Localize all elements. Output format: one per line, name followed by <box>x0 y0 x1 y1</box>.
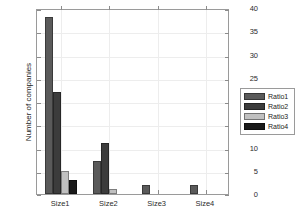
x-tick-label: Size4 <box>182 199 228 208</box>
x-tick-label: Size2 <box>85 199 131 208</box>
legend-swatch-icon <box>244 93 265 100</box>
bar-ratio1-size1 <box>45 17 53 194</box>
y-tick-label: 35 <box>250 28 258 36</box>
y-tick-label: 10 <box>250 145 258 153</box>
legend-swatch-icon <box>244 103 265 110</box>
bar-ratio1-size3 <box>142 185 150 194</box>
plot-area <box>36 9 229 195</box>
legend-label: Ratio4 <box>268 123 288 131</box>
legend-swatch-icon <box>244 113 265 120</box>
bar-ratio3-size1 <box>61 171 69 194</box>
figure-canvas: Number of companies 0510152025303540 Siz… <box>0 0 299 224</box>
y-axis-title: Number of companies <box>24 27 33 177</box>
legend-item[interactable]: Ratio1 <box>244 92 291 101</box>
legend-swatch-icon <box>244 123 265 130</box>
legend-item[interactable]: Ratio4 <box>244 122 291 131</box>
y-tick-label: 40 <box>250 5 258 13</box>
legend-label: Ratio1 <box>268 93 288 101</box>
chart-legend: Ratio1Ratio2Ratio3Ratio4 <box>240 88 295 135</box>
bar-ratio4-size1 <box>69 180 77 194</box>
y-tick-label: 25 <box>250 75 258 83</box>
y-tick-label: 30 <box>250 52 258 60</box>
bar-ratio2-size2 <box>101 143 109 194</box>
y-axis-title-container: Number of companies <box>3 9 17 195</box>
x-tick-label: Size1 <box>37 199 83 208</box>
y-tick-mark <box>225 195 229 196</box>
bar-ratio1-size2 <box>93 161 101 194</box>
legend-label: Ratio3 <box>268 113 288 121</box>
y-tick-label: 0 <box>254 191 258 199</box>
legend-item[interactable]: Ratio3 <box>244 112 291 121</box>
bar-ratio3-size2 <box>109 189 117 194</box>
legend-label: Ratio2 <box>268 103 288 111</box>
bar-ratio2-size1 <box>53 92 61 194</box>
x-tick-label: Size3 <box>134 199 180 208</box>
y-tick-label: 5 <box>254 168 258 176</box>
bar-ratio1-size4 <box>190 185 198 194</box>
legend-item[interactable]: Ratio2 <box>244 102 291 111</box>
y-tick-mark <box>37 195 41 196</box>
bar-series-layer <box>37 10 228 194</box>
